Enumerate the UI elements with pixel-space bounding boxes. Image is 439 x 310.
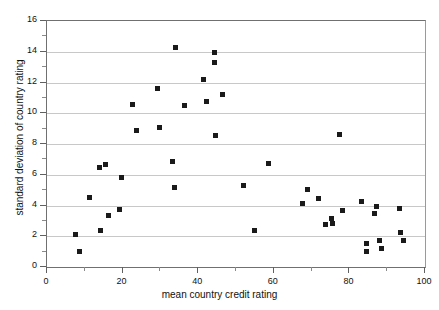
y-tick-label-10: 10 bbox=[7, 107, 37, 116]
data-point bbox=[97, 165, 102, 170]
scatter-plot-figure: standard deviation of country rating 024… bbox=[0, 0, 439, 310]
data-point bbox=[173, 45, 178, 50]
x-tick-minor-90 bbox=[386, 267, 387, 271]
data-point bbox=[374, 204, 379, 209]
x-tick-40 bbox=[197, 267, 198, 273]
data-point bbox=[155, 86, 160, 91]
x-tick-100 bbox=[424, 267, 425, 273]
x-tick-20 bbox=[122, 267, 123, 273]
x-tick-label-80: 80 bbox=[328, 276, 368, 286]
data-point bbox=[316, 196, 321, 201]
y-tick-label-6: 6 bbox=[7, 169, 37, 178]
data-point bbox=[340, 208, 345, 213]
gridline-y-4 bbox=[47, 206, 425, 207]
x-tick-60 bbox=[273, 267, 274, 273]
data-point bbox=[77, 249, 82, 254]
x-tick-80 bbox=[348, 267, 349, 273]
data-point bbox=[377, 238, 382, 243]
data-point bbox=[119, 175, 124, 180]
data-point bbox=[212, 50, 217, 55]
y-axis: 0246810121416 bbox=[0, 0, 46, 310]
data-point bbox=[305, 187, 310, 192]
y-tick-label-4: 4 bbox=[7, 200, 37, 209]
x-tick-0 bbox=[46, 267, 47, 273]
data-point bbox=[182, 103, 187, 108]
gridline-y-10 bbox=[47, 113, 425, 114]
x-tick-minor-10 bbox=[84, 267, 85, 271]
data-point bbox=[364, 249, 369, 254]
data-point bbox=[98, 228, 103, 233]
data-point bbox=[212, 60, 217, 65]
x-tick-label-0: 0 bbox=[26, 276, 66, 286]
x-tick-minor-30 bbox=[159, 267, 160, 271]
data-point bbox=[323, 222, 328, 227]
gridline-y-14 bbox=[47, 52, 425, 53]
data-point bbox=[130, 102, 135, 107]
data-point bbox=[204, 99, 209, 104]
plot-area bbox=[46, 20, 426, 268]
x-tick-minor-50 bbox=[235, 267, 236, 271]
data-point bbox=[364, 241, 369, 246]
x-tick-label-60: 60 bbox=[253, 276, 293, 286]
data-point bbox=[266, 161, 271, 166]
data-point bbox=[201, 77, 206, 82]
x-axis-title: mean country credit rating bbox=[0, 289, 439, 300]
data-point bbox=[117, 207, 122, 212]
data-point bbox=[87, 195, 92, 200]
gridline-y-2 bbox=[47, 236, 425, 237]
y-tick-label-14: 14 bbox=[7, 46, 37, 55]
data-point bbox=[401, 238, 406, 243]
x-tick-minor-70 bbox=[311, 267, 312, 271]
data-point bbox=[252, 228, 257, 233]
x-tick-label-40: 40 bbox=[177, 276, 217, 286]
x-tick-label-20: 20 bbox=[102, 276, 142, 286]
x-tick-label-100: 100 bbox=[404, 276, 439, 286]
data-point bbox=[359, 199, 364, 204]
data-point bbox=[379, 246, 384, 251]
y-tick-label-2: 2 bbox=[7, 230, 37, 239]
data-point bbox=[157, 125, 162, 130]
data-point bbox=[329, 216, 334, 221]
data-point bbox=[103, 162, 108, 167]
gridline-y-12 bbox=[47, 83, 425, 84]
data-point bbox=[397, 206, 402, 211]
data-point bbox=[300, 201, 305, 206]
data-point bbox=[73, 232, 78, 237]
data-point bbox=[172, 185, 177, 190]
data-point bbox=[134, 128, 139, 133]
data-point bbox=[213, 133, 218, 138]
data-point bbox=[170, 159, 175, 164]
y-tick-label-12: 12 bbox=[7, 77, 37, 86]
gridline-y-6 bbox=[47, 175, 425, 176]
y-tick-label-8: 8 bbox=[7, 138, 37, 147]
data-point bbox=[330, 221, 335, 226]
gridline-y-8 bbox=[47, 144, 425, 145]
data-point bbox=[337, 132, 342, 137]
data-point bbox=[241, 183, 246, 188]
data-point bbox=[106, 213, 111, 218]
data-point bbox=[398, 230, 403, 235]
data-point bbox=[372, 211, 377, 216]
data-point bbox=[220, 92, 225, 97]
y-tick-label-16: 16 bbox=[7, 15, 37, 24]
